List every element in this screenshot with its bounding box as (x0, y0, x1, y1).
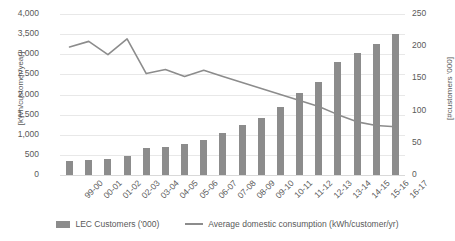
line-path (70, 39, 396, 127)
y-axis-left-tick: 3,500 (5, 29, 39, 38)
y-axis-right-tick: 0 (412, 170, 446, 179)
x-axis-tick-label: 99-00 (82, 178, 104, 200)
x-axis-tick-label: 06-07 (216, 178, 238, 200)
x-axis-tick-label: 07-08 (235, 178, 257, 200)
y-axis-right-ticks: 050100150200250 (412, 0, 446, 241)
y-axis-left-tick: 1,500 (5, 110, 39, 119)
x-axis-labels: 99-0000-0101-0202-0303-0404-0505-0606-07… (60, 176, 405, 216)
x-axis-tick-label: 12-13 (331, 178, 353, 200)
chart-legend: LEC Customers ('000) Average domestic co… (0, 214, 455, 234)
y-axis-left-ticks: 05001,0001,5002,0002,5003,0003,5004,000 (5, 0, 39, 241)
x-axis-tick-label: 04-05 (178, 178, 200, 200)
legend-item-lec-customers: LEC Customers ('000) (56, 219, 159, 229)
y-axis-left-tick: 2,500 (5, 69, 39, 78)
y-axis-right-tick: 50 (412, 138, 446, 147)
line-series-average-consumption (60, 14, 405, 175)
x-axis-tick-label: 13-14 (350, 178, 372, 200)
x-axis-tick-label: 01-02 (120, 178, 142, 200)
y-axis-left-tick: 500 (5, 150, 39, 159)
legend-label-lec-customers: LEC Customers ('000) (75, 219, 159, 229)
x-axis-tick-label: 11-12 (312, 178, 334, 200)
legend-label-average-consumption: Average domestic consumption (kWh/custom… (208, 219, 398, 229)
x-axis-tick-label: 03-04 (159, 178, 181, 200)
y-axis-left-tick: 1,000 (5, 130, 39, 139)
line-swatch-icon (185, 223, 203, 225)
y-axis-right-tick: 200 (412, 41, 446, 50)
x-axis-tick-label: 15-16 (389, 178, 411, 200)
x-axis-tick-label: 14-15 (369, 178, 391, 200)
chart-container: [kWh/customer/year] [#customers '000] 05… (0, 0, 455, 241)
y-axis-left-tick: 0 (5, 170, 39, 179)
y-axis-left-tick: 3,000 (5, 49, 39, 58)
y-axis-left-tick: 2,000 (5, 90, 39, 99)
y-axis-left-tick: 4,000 (5, 9, 39, 18)
x-axis-tick-label: 00-01 (101, 178, 123, 200)
legend-item-average-consumption: Average domestic consumption (kWh/custom… (185, 219, 398, 229)
y-axis-right-tick: 100 (412, 106, 446, 115)
x-axis-tick-label: 09-10 (274, 178, 296, 200)
y-axis-right-tick: 150 (412, 73, 446, 82)
plot-area (60, 14, 405, 175)
bar-swatch-icon (56, 221, 70, 228)
x-axis-tick-label: 08-09 (254, 178, 276, 200)
y-axis-right-tick: 250 (412, 9, 446, 18)
x-axis-tick-label: 10-11 (293, 178, 315, 200)
x-axis-tick-label: 05-06 (197, 178, 219, 200)
x-axis-tick-label: 02-03 (139, 178, 161, 200)
